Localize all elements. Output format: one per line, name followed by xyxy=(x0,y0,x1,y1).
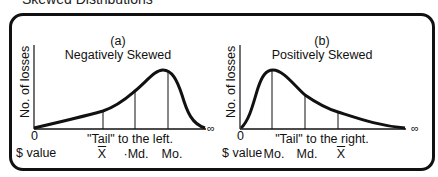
panel-a-tail-note: "Tail" to the left. xyxy=(87,132,173,146)
panel-a-mode-label: Mo. xyxy=(162,147,183,161)
panel-b-mean-label: X xyxy=(337,147,345,161)
distribution-curves xyxy=(0,0,438,177)
panel-a-marker-lines xyxy=(103,71,168,129)
panel-a-xlabel: $ value xyxy=(16,146,56,160)
panel-b-ylabel: No. of losses xyxy=(224,46,238,118)
panel-a-title: Negatively Skewed xyxy=(65,48,171,62)
panel-a-curve xyxy=(34,70,205,128)
panel-a-origin: 0 xyxy=(31,129,38,143)
panel-b-origin: 0 xyxy=(237,129,244,143)
panel-a-median-label: ·Md. xyxy=(124,147,149,161)
panel-b-tail-note: "Tail" to the right. xyxy=(275,132,369,146)
panel-b-median-label: Md. xyxy=(297,147,318,161)
panel-b-title: Positively Skewed xyxy=(272,48,373,62)
panel-b-infinity: ∞ xyxy=(411,122,419,134)
panel-a-ylabel: No. of losses xyxy=(18,46,32,118)
panel-b-marker-lines xyxy=(272,71,338,129)
panel-a-mean-label: X xyxy=(98,147,106,161)
panel-a-infinity: ∞ xyxy=(207,122,215,134)
panel-b-mode-label: Mo. xyxy=(264,147,285,161)
panel-b-xlabel: $ value xyxy=(222,146,262,160)
panel-b-letter: (b) xyxy=(314,34,329,48)
panel-a-letter: (a) xyxy=(110,34,125,48)
panel-b-curve xyxy=(241,70,405,128)
